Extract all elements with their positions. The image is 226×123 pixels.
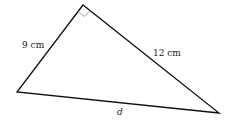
triangle-diagram: 9 cm 12 cm d	[0, 0, 226, 123]
label-side-left: 9 cm	[22, 40, 45, 50]
triangle-shape	[17, 5, 219, 113]
label-side-right: 12 cm	[153, 48, 181, 58]
right-angle-marker	[78, 11, 90, 17]
label-side-bottom: d	[117, 107, 123, 117]
triangle-svg: 9 cm 12 cm d	[0, 0, 226, 123]
